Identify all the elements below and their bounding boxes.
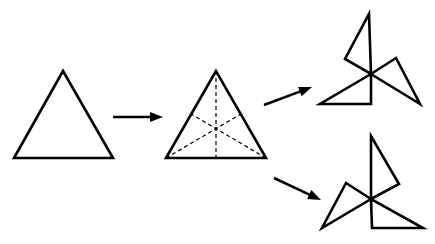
arrowhead-icon [307,190,321,200]
arrow-3 [274,178,321,200]
pinwheel-piece [371,199,423,228]
arrowhead-icon [298,87,312,96]
dissection-diagram [0,0,435,244]
pinwheel-piece [345,14,371,74]
original-triangle [14,71,113,158]
arrowhead-icon [150,112,163,122]
pinwheel-top [320,14,420,104]
divided-triangle [166,71,266,158]
pinwheel-piece [371,136,399,199]
arrow-2 [264,87,312,105]
pinwheel-piece [322,183,371,228]
pinwheel-piece [371,58,420,104]
pinwheel-bottom [322,136,423,228]
arrow-shaft [264,91,302,105]
arrow-1 [113,112,163,122]
arrow-shaft [274,178,311,195]
pinwheel-piece [320,74,371,104]
